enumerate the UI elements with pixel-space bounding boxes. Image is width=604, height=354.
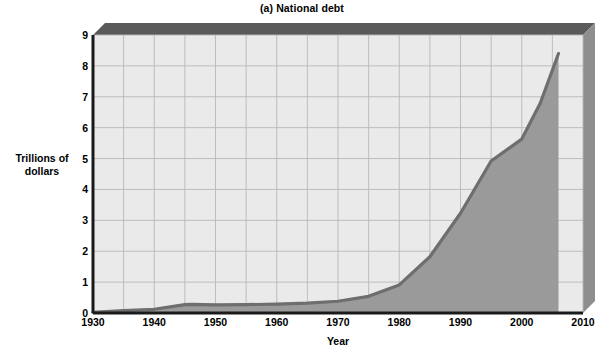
plot-area: [0, 0, 604, 354]
plot-bevel-top: [93, 23, 595, 35]
plot-bevel-right: [583, 23, 595, 313]
chart-figure: (a) National debt Trillions of dollars Y…: [0, 0, 604, 354]
